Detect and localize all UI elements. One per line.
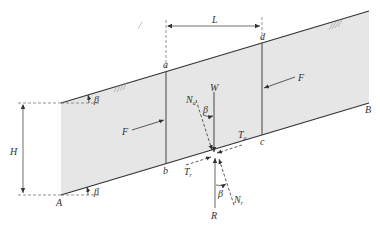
force-Tr-arrow [186,157,211,165]
label-F-right: F [297,72,305,83]
label-F-left: F [121,126,129,137]
label-R: R [210,210,217,221]
label-L: L [211,14,218,25]
label-Nr: Nr [233,194,244,206]
label-B: B [365,104,371,115]
label-a: a [163,59,168,70]
label-d: d [260,31,266,42]
slope-diagram: L H β β A B a b c d F F W Na β Ta Tr R N… [0,0,380,229]
label-beta-bottom: β [93,186,99,197]
beta-R-arc [216,184,226,186]
label-Tr: Tr [184,166,193,178]
beta-bottom-arc [87,187,88,195]
label-beta-top: β [93,94,99,105]
label-A: A [55,197,63,208]
label-b: b [163,165,168,176]
label-beta-R: β [217,188,223,199]
label-beta-W: β [202,104,208,115]
label-c: c [260,136,265,147]
label-H: H [9,146,18,157]
